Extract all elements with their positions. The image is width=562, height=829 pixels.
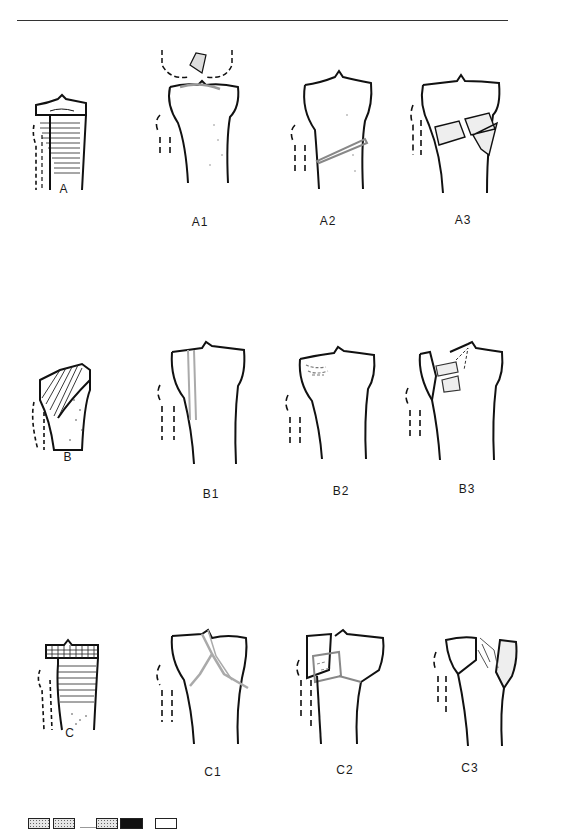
illustration-c3	[432, 632, 522, 747]
illustration-b3	[400, 340, 515, 460]
schematic-a	[28, 95, 100, 190]
legend-swatch-black	[120, 818, 143, 829]
label-c1: C1	[204, 765, 221, 779]
top-rule	[17, 20, 508, 21]
label-a1: A1	[192, 215, 209, 229]
label-c2: C2	[336, 763, 353, 777]
illustration-b2	[280, 345, 390, 460]
schematic-c	[36, 640, 106, 730]
label-a2: A2	[320, 214, 337, 228]
legend-swatch-stippled-1	[28, 818, 50, 829]
illustration-b1	[150, 340, 260, 465]
label-a3: A3	[455, 213, 472, 227]
label-b1: B1	[203, 487, 220, 501]
label-c3: C3	[461, 761, 478, 775]
legend-swatch-stippled-2	[53, 818, 75, 829]
label-c: C	[65, 726, 75, 740]
illustration-c1	[150, 630, 265, 745]
label-b2: B2	[333, 484, 350, 498]
label-b3: B3	[459, 482, 476, 496]
label-a: A	[59, 182, 68, 196]
legend-swatch-stippled-3	[96, 818, 118, 829]
illustration-a1	[140, 45, 250, 185]
illustration-a3	[405, 75, 515, 195]
schematic-b	[30, 360, 100, 450]
illustration-a2	[275, 65, 385, 190]
legend-swatch-white	[155, 818, 177, 829]
label-b: B	[63, 450, 72, 464]
illustration-c2	[295, 630, 400, 745]
